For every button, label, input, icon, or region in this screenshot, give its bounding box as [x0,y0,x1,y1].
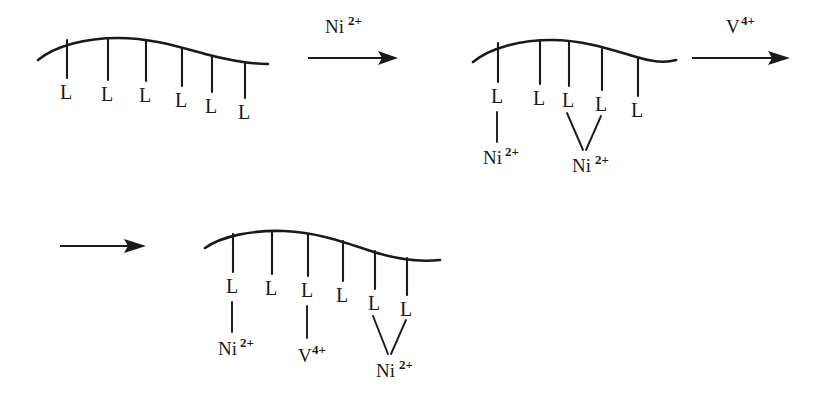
metal-charge: 2+ [240,335,254,350]
reaction-scheme: L L L L L L Ni 2+ L L L L L Ni 2+ Ni 2+ [0,0,827,396]
arrow-1-ni: Ni 2+ [308,13,398,65]
polymer-backbone-3 [205,231,440,261]
ligand-label: L [226,275,238,297]
arrow-2-reagent-charge: 4+ [741,13,755,28]
metal-symbol: Ni [483,147,502,168]
metal-charge: 2+ [399,357,413,372]
ligand-label: L [101,83,113,105]
ligand-label: L [491,85,503,107]
structure-3: L L L L L L Ni 2+ V 4+ Ni 2+ [205,231,440,381]
metal-bond-2-2b [586,116,601,150]
ligand-label: L [631,99,643,121]
ligand-label: L [533,87,545,109]
arrow-1-reagent-symbol: Ni [325,16,344,37]
ligand-label: L [60,81,72,103]
arrow-1-reagent-charge: 2+ [348,13,362,28]
structure-1: L L L L L L [38,38,268,123]
ligand-label: L [238,101,250,123]
metal-symbol: Ni [218,338,237,359]
ligand-label: L [265,277,277,299]
ligand-label: L [336,284,348,306]
arrow-2-reagent-symbol: V [726,16,740,37]
metal-charge: 2+ [595,152,609,167]
metal-symbol: Ni [376,360,395,381]
arrow-2-vanadium: V 4+ [692,13,790,65]
polymer-backbone-1 [38,38,268,64]
metal-charge: 2+ [505,144,519,159]
ligand-label: L [400,298,412,320]
metal-bond-3-3b [391,320,406,354]
structure-2: L L L L L Ni 2+ Ni 2+ [473,40,676,176]
ligand-label: L [562,89,574,111]
metal-symbol: Ni [572,155,591,176]
metal-charge: 4+ [312,342,326,357]
ligand-label: L [139,84,151,106]
ligand-label: L [175,89,187,111]
ligand-label: L [301,279,313,301]
polymer-backbone-2 [473,40,676,62]
metal-symbol: V [298,345,312,366]
arrow-3-continuation [60,239,146,253]
ligand-label: L [595,93,607,115]
ligand-label: L [368,292,380,314]
metal-bond-2-2a [567,113,583,150]
metal-bond-3-3a [373,316,388,354]
ligand-label: L [205,95,217,117]
